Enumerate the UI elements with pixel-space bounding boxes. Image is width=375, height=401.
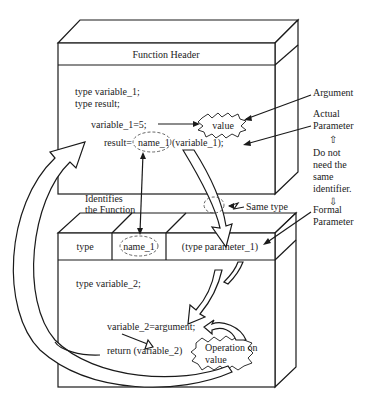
argument-label: Argument xyxy=(313,87,354,98)
value-label: value xyxy=(212,120,234,131)
function-header-label: Function Header xyxy=(133,49,201,60)
code-line-declare-result: type result; xyxy=(75,98,120,109)
top-box-top-face xyxy=(58,20,298,43)
code-line-call-args: (variable_1); xyxy=(172,137,224,149)
code-line-assign-var1: variable_1=5; xyxy=(91,119,147,130)
function-call-diagram: Function Header type variable_1; type re… xyxy=(0,0,375,401)
operation-label-line2: value xyxy=(205,354,227,365)
header-cell-type: type xyxy=(76,241,94,252)
code-line-declare-var2: type variable_2; xyxy=(76,278,141,289)
formal-parameter-label-2: Parameter xyxy=(313,216,354,227)
code-line-call-name: name_1 xyxy=(138,137,170,148)
code-line-assign-var2: variable_2=argument; xyxy=(107,321,195,332)
actual-parameter-label-1: Actual xyxy=(313,108,340,119)
up-arrow-glyph: ⇧ xyxy=(329,134,337,145)
note-line-2: need the xyxy=(313,159,347,170)
header-cell-name: name_1 xyxy=(123,241,155,252)
bottom-box-top-face xyxy=(58,213,296,233)
function-definition-box: type name_1 (type parameter_1) type vari… xyxy=(58,213,296,387)
identifies-label-1: Identifies xyxy=(85,193,123,204)
function-header-box: Function Header type variable_1; type re… xyxy=(58,20,298,194)
same-type-label: Same type xyxy=(246,201,288,212)
note-line-3: same xyxy=(313,171,334,182)
code-line-declare-var1: type variable_1; xyxy=(75,86,140,97)
note-line-1: Do not xyxy=(313,147,341,158)
note-line-4: identifier. xyxy=(313,183,352,194)
code-line-return: return (variable_2) xyxy=(107,345,182,357)
header-cell-parameter: (type parameter_1) xyxy=(182,241,258,253)
formal-parameter-label-1: Formal xyxy=(313,204,342,215)
actual-parameter-label-2: Parameter xyxy=(313,120,354,131)
operation-label-line1: Operation on xyxy=(205,342,258,353)
bottom-box-side-face xyxy=(275,213,296,387)
code-line-result: result= xyxy=(104,137,132,148)
identifies-label-2: the Function xyxy=(85,204,135,215)
